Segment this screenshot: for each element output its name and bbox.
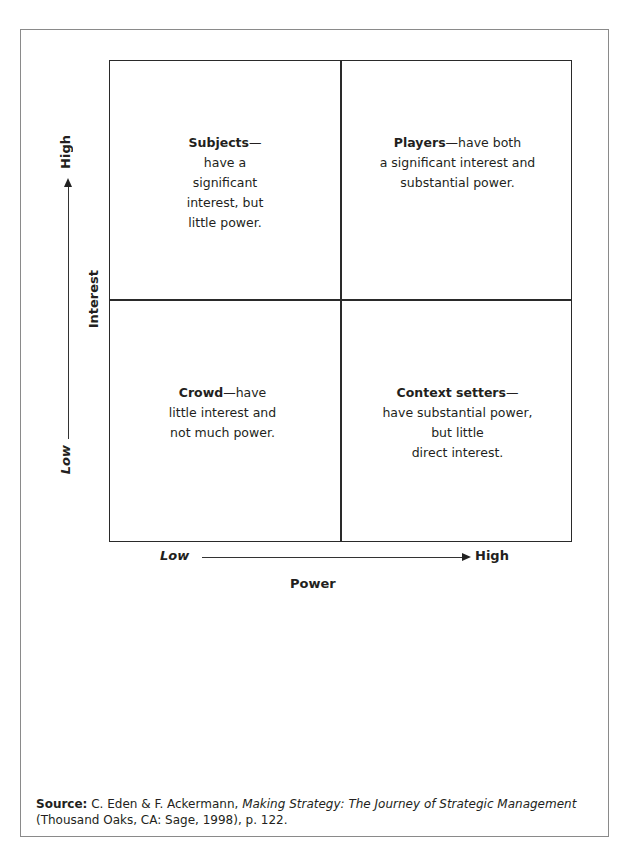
quadrant-crowd: Crowd—have little interest and not much …	[140, 383, 305, 443]
source-title: Making Strategy: The Journey of Strategi…	[242, 797, 576, 811]
quadrant-title: Context setters	[397, 385, 506, 400]
grid-vertical-divider	[340, 60, 342, 542]
x-axis: Low High	[160, 548, 520, 568]
x-axis-line	[202, 557, 462, 558]
quadrant-subjects: Subjects— have a significant interest, b…	[150, 133, 300, 233]
quadrant-title: Players	[394, 135, 446, 150]
quadrant-players: Players—have both a significant interest…	[360, 133, 555, 193]
y-axis-high-label: High	[58, 135, 73, 169]
quadrant-title: Subjects	[189, 135, 249, 150]
y-axis-low-label: Low	[58, 445, 73, 474]
arrow-up-icon	[64, 178, 72, 187]
grid-horizontal-divider	[109, 299, 572, 301]
y-axis-title: Interest	[86, 270, 101, 328]
y-axis-line	[68, 187, 69, 439]
y-axis: High Low	[60, 135, 80, 480]
quadrant-context-setters: Context setters— have substantial power,…	[360, 383, 555, 463]
source-citation: Source: C. Eden & F. Ackermann, Making S…	[36, 796, 596, 828]
quadrant-title: Crowd	[179, 385, 223, 400]
x-axis-title: Power	[290, 576, 336, 591]
source-label: Source:	[36, 797, 87, 811]
x-axis-low-label: Low	[160, 548, 189, 563]
x-axis-high-label: High	[475, 548, 509, 563]
arrow-right-icon	[462, 553, 471, 561]
